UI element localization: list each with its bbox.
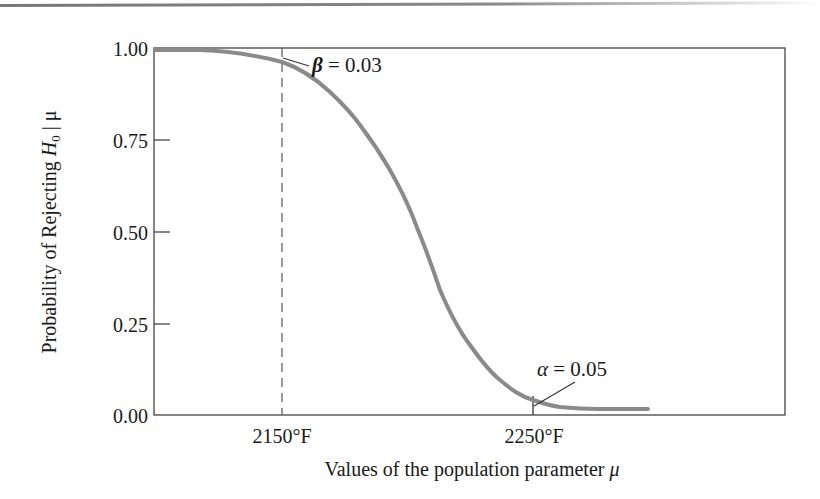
y-tick-label: 0.25 <box>113 314 148 336</box>
y-axis-title: Probability of Rejecting H0 | μ <box>38 111 63 354</box>
y-tick-label: 0.75 <box>113 130 148 152</box>
y-axis <box>154 140 170 324</box>
x-tick-label: 2250°F <box>504 425 563 447</box>
y-tick-label: 0.00 <box>113 405 148 427</box>
y-tick-label: 0.50 <box>113 222 148 244</box>
power-curve-chart: 1.00 0.75 0.50 0.25 0.00 Probability of … <box>0 0 820 499</box>
x-axis-title: Values of the population parameter μ <box>325 458 620 481</box>
x-tick-label: 2150°F <box>252 425 311 447</box>
alpha-leader-line <box>534 382 575 406</box>
plot-frame <box>154 48 785 415</box>
y-tick-label: 1.00 <box>113 38 148 60</box>
beta-annotation: β = 0.03 <box>311 53 382 77</box>
power-curve-line <box>155 50 648 409</box>
alpha-annotation: α = 0.05 <box>537 357 607 381</box>
